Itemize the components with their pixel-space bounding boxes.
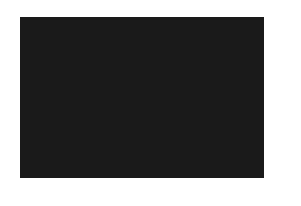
knitting-chart-grid — [20, 17, 264, 178]
